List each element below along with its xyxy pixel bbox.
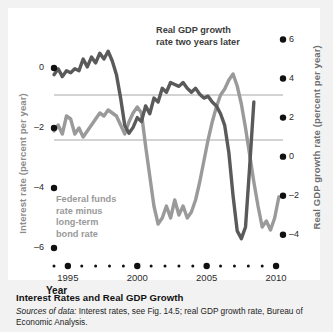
tick-dot [233,265,236,268]
caption-source: Sources of data: Interest rates, see Fig… [16,306,322,327]
tick-dot [51,125,57,131]
right-axis-tick-label: 2 [289,112,311,122]
tick-dot [80,265,83,268]
x-axis-tick-label: 1995 [48,272,88,283]
right-axis-tick-label: 6 [289,34,311,44]
tick-dot [280,36,286,42]
tick-dot [280,232,286,238]
right-axis-title: Real GDP growth rate (percent per year) [311,50,322,230]
tick-dot [51,185,57,191]
x-axis-tick-label: 2005 [187,272,227,283]
right-axis-tick-label: –2 [289,190,311,200]
left-axis-tick-label: –2 [22,122,44,132]
tick-dot [280,193,286,199]
tick-dot [191,265,194,268]
tick-dot [247,265,250,268]
figure-container: Interest rate (percent per year) Real GD… [0,0,333,332]
x-axis-tick-label: 2000 [117,272,157,283]
right-axis-tick-label: 4 [289,73,311,83]
tick-dot [203,263,209,269]
tick-dot [51,65,57,71]
tick-dot [280,114,286,120]
tick-dot [261,265,264,268]
tick-dot [273,263,279,269]
x-axis-tick-label: 2010 [256,272,296,283]
annotation-federal-funds-rate: Federal funds rate minus long-term bond … [56,194,116,240]
left-axis-tick-label: 0 [22,62,44,72]
left-axis-tick-label: –6 [22,242,44,252]
left-axis-tick-label: –4 [22,182,44,192]
tick-dot [134,263,140,269]
tick-dot [280,75,286,81]
tick-dot [164,265,167,268]
caption-title: Interest Rates and Real GDP Growth [16,292,322,303]
right-axis-tick-label: 0 [289,151,311,161]
tick-dot [53,265,56,268]
tick-dot [177,265,180,268]
x-axis-minor-tick-dots [53,265,264,268]
tick-dot [108,265,111,268]
tick-dot [219,265,222,268]
right-axis-tick-dots [280,36,286,238]
left-axis-title: Interest rate (percent per year) [17,79,28,249]
tick-dot [122,265,125,268]
plot-area: Interest rate (percent per year) Real GD… [8,8,320,280]
chart-svg [8,8,320,280]
tick-dot [150,265,153,268]
caption-source-label: Sources of data: [16,306,76,316]
tick-dot [65,263,71,269]
tick-dot [94,265,97,268]
tick-dot [280,153,286,159]
tick-dot [51,245,57,251]
right-axis-tick-label: –4 [289,229,311,239]
caption-block: Interest Rates and Real GDP Growth Sourc… [16,292,322,327]
annotation-real-gdp-growth: Real GDP growth rate two years later [156,25,240,48]
